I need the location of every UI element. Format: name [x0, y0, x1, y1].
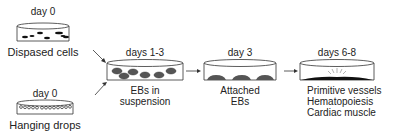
- arrow-dispersed-to-suspension: [93, 50, 106, 63]
- day-label-differentiated: days 6-8: [318, 47, 356, 58]
- arrow-hanging-to-suspension: [95, 82, 107, 95]
- day-label-suspension: days 1-3: [126, 47, 164, 58]
- dish-differentiated: [300, 60, 374, 81]
- beating-rays-icon: [328, 68, 346, 74]
- arrow-suspension-to-attached: [186, 69, 201, 73]
- day-label-hanging: day 0: [33, 88, 57, 99]
- outcome-hematopoiesis: Hematopoiesis: [307, 96, 373, 107]
- outcome-cardiac-muscle: Cardiac muscle: [307, 107, 376, 118]
- dish-hanging-drops: [17, 100, 73, 114]
- arrow-attached-to-differentiated: [284, 69, 298, 73]
- dish-ebs-suspension: [107, 60, 183, 81]
- dish-dispersed-cells: [17, 23, 69, 41]
- day-label-dispersed: day 0: [31, 6, 55, 17]
- dish-attached-ebs: [204, 60, 276, 81]
- stage-label-dispersed: Dispased cells: [8, 47, 79, 58]
- stage-label-attached-line2: EBs: [231, 96, 249, 107]
- stage-label-suspension-line2: suspension: [120, 96, 171, 107]
- stage-label-attached-line1: Attached: [220, 85, 259, 96]
- stage-label-suspension-line1: EBs in: [131, 85, 160, 96]
- outcome-primitive-vessels: Primitive vessels: [307, 85, 381, 96]
- day-label-attached: day 3: [228, 47, 252, 58]
- stage-label-hanging: Hanging drops: [9, 120, 81, 131]
